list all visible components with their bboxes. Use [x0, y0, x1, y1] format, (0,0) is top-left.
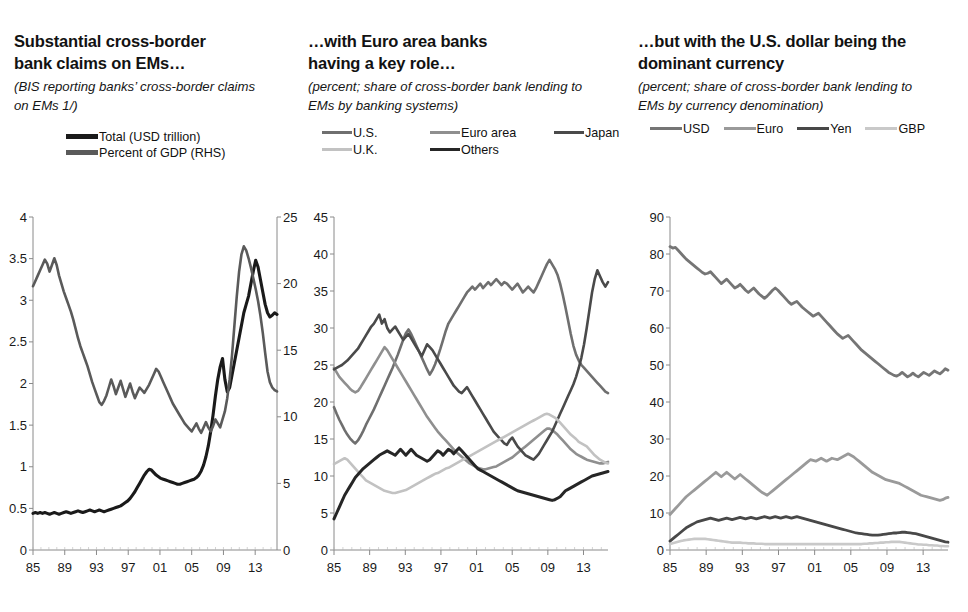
- panel-currency: …but with the U.S. dollar being the domi…: [630, 0, 968, 612]
- svg-text:0: 0: [321, 543, 328, 558]
- svg-text:85: 85: [26, 560, 40, 575]
- svg-text:5: 5: [283, 476, 290, 491]
- svg-text:0: 0: [657, 543, 664, 558]
- svg-text:05: 05: [184, 560, 198, 575]
- panel-1-subtitle: (BIS reporting banks’ cross-border claim…: [14, 77, 264, 115]
- svg-text:97: 97: [121, 560, 135, 575]
- panel-2-legend: U.S. Euro area Japan U.K. Others: [322, 126, 632, 157]
- legend-swatch-yen: [797, 127, 829, 131]
- legend-label-gbp: GBP: [898, 122, 925, 136]
- svg-text:40: 40: [650, 395, 664, 410]
- panel-3-legend: USD Euro Yen GBP: [650, 122, 968, 136]
- legend-item-total[interactable]: Total (USD trillion): [66, 130, 200, 144]
- legend-swatch-usd: [650, 127, 682, 131]
- panel-banking-systems: …with Euro area banks having a key role……: [300, 0, 630, 612]
- svg-text:10: 10: [283, 409, 297, 424]
- series-line: [334, 414, 608, 493]
- svg-text:09: 09: [216, 560, 230, 575]
- legend-label-usd: USD: [683, 122, 710, 136]
- panel-2-chart-area: 0510152025303540458589939701050913: [300, 205, 630, 605]
- legend-swatch-gbp: [865, 127, 897, 131]
- svg-text:93: 93: [735, 560, 749, 575]
- chart-currency-svg: 01020304050607080908589939701050913: [630, 205, 968, 605]
- svg-text:89: 89: [362, 560, 376, 575]
- svg-text:60: 60: [650, 321, 664, 336]
- svg-text:97: 97: [771, 560, 785, 575]
- series-line: [33, 260, 277, 514]
- svg-text:20: 20: [650, 469, 664, 484]
- svg-text:10: 10: [650, 506, 664, 521]
- svg-text:1: 1: [20, 459, 27, 474]
- svg-text:09: 09: [880, 560, 894, 575]
- legend-item-usd[interactable]: USD: [650, 122, 710, 136]
- svg-text:97: 97: [434, 560, 448, 575]
- svg-text:30: 30: [650, 432, 664, 447]
- svg-text:05: 05: [844, 560, 858, 575]
- svg-text:15: 15: [283, 343, 297, 358]
- legend-swatch-total: [66, 134, 98, 138]
- legend-swatch-percent-gdp: [66, 150, 98, 154]
- panel-claims: Substantial cross-border bank claims on …: [0, 0, 300, 612]
- svg-text:90: 90: [650, 210, 664, 225]
- svg-text:10: 10: [314, 469, 328, 484]
- svg-text:0: 0: [283, 543, 290, 558]
- svg-text:2: 2: [20, 376, 27, 391]
- legend-swatch-euro: [724, 127, 756, 131]
- legend-swatch-japan: [554, 131, 584, 135]
- svg-text:15: 15: [314, 432, 328, 447]
- svg-text:0.5: 0.5: [9, 501, 27, 516]
- svg-text:93: 93: [89, 560, 103, 575]
- svg-text:4: 4: [20, 210, 27, 225]
- svg-text:40: 40: [314, 247, 328, 262]
- svg-text:70: 70: [650, 284, 664, 299]
- legend-label-euro-area: Euro area: [461, 126, 516, 140]
- panel-1-chart-area: 00.511.522.533.5405101520258589939701050…: [0, 205, 300, 605]
- svg-text:25: 25: [314, 358, 328, 373]
- chart-claims-svg: 00.511.522.533.5405101520258589939701050…: [0, 205, 300, 605]
- svg-text:25: 25: [283, 210, 297, 225]
- svg-text:13: 13: [248, 560, 262, 575]
- legend-swatch-others: [430, 148, 460, 152]
- legend-swatch-us: [322, 131, 352, 135]
- svg-text:35: 35: [314, 284, 328, 299]
- svg-text:20: 20: [283, 276, 297, 291]
- series-line: [670, 247, 948, 377]
- series-line: [670, 539, 948, 546]
- svg-text:20: 20: [314, 395, 328, 410]
- legend-label-japan: Japan: [585, 126, 619, 140]
- svg-text:0: 0: [20, 543, 27, 558]
- legend-item-euro[interactable]: Euro: [724, 122, 784, 136]
- svg-text:5: 5: [321, 506, 328, 521]
- panel-2-title: …with Euro area banks having a key role…: [308, 30, 538, 74]
- legend-item-gbp[interactable]: GBP: [865, 122, 925, 136]
- legend-item-us[interactable]: U.S.: [322, 126, 430, 140]
- svg-text:01: 01: [153, 560, 167, 575]
- legend-item-euro-area[interactable]: Euro area: [430, 126, 554, 140]
- svg-text:09: 09: [541, 560, 555, 575]
- chart-banking-systems-svg: 0510152025303540458589939701050913: [300, 205, 630, 605]
- series-line: [334, 260, 608, 444]
- svg-text:13: 13: [916, 560, 930, 575]
- svg-text:01: 01: [469, 560, 483, 575]
- legend-label-uk: U.K.: [353, 143, 378, 157]
- svg-text:89: 89: [58, 560, 72, 575]
- legend-item-uk[interactable]: U.K.: [322, 143, 430, 157]
- panel-3-title: …but with the U.S. dollar being the domi…: [638, 30, 928, 74]
- legend-label-euro: Euro: [757, 122, 784, 136]
- legend-item-japan[interactable]: Japan: [554, 126, 632, 140]
- svg-text:05: 05: [505, 560, 519, 575]
- legend-item-others[interactable]: Others: [430, 143, 550, 157]
- svg-text:85: 85: [663, 560, 677, 575]
- legend-item-yen[interactable]: Yen: [797, 122, 851, 136]
- series-line: [670, 517, 948, 543]
- svg-text:85: 85: [327, 560, 341, 575]
- legend-label-yen: Yen: [830, 122, 851, 136]
- legend-item-percent-gdp[interactable]: Percent of GDP (RHS): [66, 146, 225, 160]
- panel-1-title: Substantial cross-border bank claims on …: [14, 30, 244, 74]
- svg-text:01: 01: [807, 560, 821, 575]
- panel-3-subtitle: (percent; share of cross-border bank len…: [638, 77, 923, 115]
- svg-text:89: 89: [699, 560, 713, 575]
- svg-text:80: 80: [650, 247, 664, 262]
- legend-label-others: Others: [461, 143, 499, 157]
- panel-2-subtitle: (percent; share of cross-border bank len…: [308, 77, 598, 115]
